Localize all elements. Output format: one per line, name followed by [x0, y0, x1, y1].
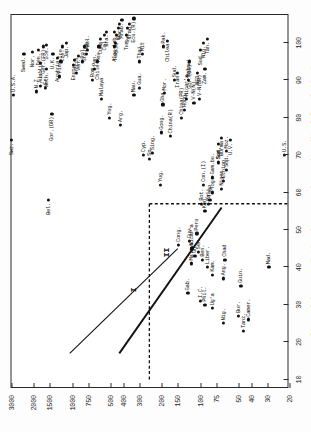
- y-axis-tick-label: 50: [234, 395, 242, 403]
- data-point: [179, 116, 182, 119]
- data-point: [44, 43, 47, 46]
- y-axis-tick: [238, 383, 239, 388]
- data-point: [195, 71, 198, 74]
- x-axis-tick-label: 90: [294, 76, 302, 84]
- data-point: [183, 109, 186, 112]
- data-point: [34, 90, 37, 93]
- data-point-label: Peru: [193, 219, 199, 231]
- data-point: [221, 180, 224, 183]
- data-point: [160, 131, 163, 134]
- data-point: [203, 68, 206, 71]
- data-point-label: Arg.: [117, 110, 123, 122]
- x-axis-tick: [283, 341, 288, 342]
- data-point: [132, 94, 135, 97]
- data-point-label: Phil.: [201, 287, 207, 302]
- y-axis-tick: [110, 383, 111, 388]
- data-point: [203, 303, 206, 306]
- data-point-label: Tog.: [209, 178, 215, 190]
- y-axis-tick-label: 1000: [68, 395, 76, 411]
- data-point-label: Swed.: [20, 57, 26, 72]
- data-point: [208, 198, 211, 201]
- data-point: [210, 176, 213, 179]
- x-axis-tick: [283, 154, 288, 155]
- regression-line-label-I: I: [129, 287, 138, 292]
- data-point-label: Burma: [218, 141, 224, 156]
- y-axis-tick-label: 200: [157, 395, 165, 407]
- data-point: [184, 97, 187, 100]
- x-axis-tick-label: 60: [294, 189, 302, 197]
- x-axis-tick-label: 10: [294, 376, 302, 384]
- data-point: [221, 322, 224, 325]
- data-point: [9, 139, 12, 142]
- x-axis-tick-label: 80: [294, 114, 302, 122]
- y-axis-tick: [200, 383, 201, 388]
- data-point: [210, 273, 213, 276]
- data-point-label: Zam.: [201, 72, 207, 84]
- data-point: [228, 139, 231, 142]
- data-point: [202, 183, 205, 186]
- data-point-label: U.K.: [49, 57, 55, 69]
- data-point: [140, 53, 143, 56]
- data-point-label: Mit: [139, 42, 145, 51]
- data-point: [120, 19, 123, 22]
- data-point-label: Ug'a: [209, 293, 215, 305]
- y-axis-tick: [139, 383, 140, 388]
- data-point: [46, 198, 49, 201]
- data-point-label: NED: [194, 76, 200, 85]
- x-axis-tick: [283, 229, 288, 230]
- data-point-label: Bra.: [103, 35, 109, 47]
- data-point-label: Kam.: [209, 260, 215, 272]
- data-point: [210, 307, 213, 310]
- data-point: [163, 92, 166, 95]
- data-point-label: Tan.: [204, 42, 210, 54]
- data-point-label: Malaya: [98, 78, 104, 96]
- data-point-label: Yug.: [157, 170, 163, 182]
- y-axis-tick: [49, 383, 50, 388]
- data-point: [246, 318, 249, 321]
- data-point-label: U.V.: [227, 143, 233, 155]
- data-point: [220, 187, 223, 190]
- data-point-label: Gor.(DR): [48, 117, 54, 141]
- data-point-label: Cong.: [175, 227, 181, 242]
- data-point: [147, 157, 150, 160]
- x-axis-tick: [283, 304, 288, 305]
- data-point-label: Mad.: [265, 252, 271, 264]
- y-axis-tick: [123, 383, 124, 388]
- y-axis-tick: [11, 383, 12, 388]
- x-axis-tick: [283, 192, 288, 193]
- data-point-label: Gab.: [184, 278, 190, 290]
- x-axis-tick: [283, 79, 288, 80]
- scatter-figure: Gross Domestic Product per Capita (U.S. …: [0, 0, 311, 432]
- x-axis-tick-label: 40: [294, 263, 302, 271]
- data-point-label: Swz.: [8, 143, 14, 155]
- scanned-figure-page: Gross Domestic Product per Capita (U.S. …: [0, 0, 311, 432]
- data-point-label: Bul.: [84, 35, 90, 47]
- data-point: [132, 17, 135, 20]
- y-axis-tick: [267, 383, 268, 388]
- data-point-label: Ecu.(R): [130, 22, 136, 43]
- data-point: [187, 60, 190, 63]
- x-axis-tick-label: 30: [294, 301, 302, 309]
- y-axis-tick-label: 500: [106, 395, 114, 407]
- data-point: [189, 262, 192, 265]
- y-axis-tick: [33, 383, 34, 388]
- data-point-label: Camer.: [245, 299, 251, 317]
- data-point: [74, 71, 77, 74]
- data-point: [100, 97, 103, 100]
- data-point-label: Sup.: [223, 155, 229, 167]
- data-point: [220, 137, 223, 140]
- x-axis-title: Size of Largest Native-Language Communit…: [308, 14, 311, 388]
- regression-line-I: [69, 249, 177, 354]
- data-point: [203, 210, 206, 213]
- data-point: [186, 292, 189, 295]
- data-point-label: Iran: [174, 76, 180, 88]
- y-axis-tick-label: 750: [84, 395, 92, 407]
- data-point: [216, 161, 219, 164]
- data-point-label: Fin.: [56, 62, 62, 74]
- data-point: [221, 277, 224, 280]
- data-point: [30, 51, 33, 54]
- data-point-label: Nig.: [220, 308, 226, 320]
- data-point: [158, 183, 161, 186]
- data-point-label: U.S.A.: [10, 74, 16, 92]
- y-axis-tick-label: 3000: [7, 395, 15, 411]
